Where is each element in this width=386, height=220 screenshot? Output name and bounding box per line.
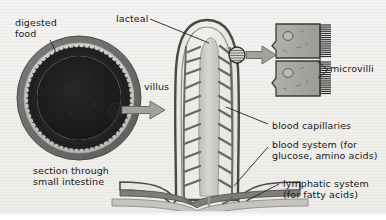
cross-section-group: [17, 36, 141, 160]
label-villus: villus: [144, 82, 169, 93]
label-blood-system: blood system (for glucose, amino acids): [272, 140, 378, 162]
villus-diagram-figure: digested food section through small inte…: [0, 0, 386, 220]
epithelial-cell-upper: [272, 24, 320, 58]
label-digested-food: digested food: [15, 18, 57, 40]
label-lacteal: lacteal: [116, 14, 148, 25]
page-bottom-edge: [0, 211, 386, 220]
magnify-arrow-microvilli: [246, 46, 276, 64]
label-lymphatic-system: lymphatic system (for fatty acids): [283, 179, 369, 201]
cell-nucleus-upper: [283, 32, 293, 41]
label-microvilli: microvilli: [330, 64, 374, 75]
villus-group: [175, 20, 239, 200]
epithelial-cell-lower: [272, 61, 320, 96]
microvilli-bristles: [320, 25, 331, 94]
label-blood-capillaries: blood capillaries: [272, 121, 351, 132]
cell-nucleus-lower: [283, 69, 293, 78]
epithelial-cells-group: [272, 24, 331, 96]
villus-callout-to-microvilli: [229, 46, 276, 64]
label-section-through-small-intestine: section through small intestine: [33, 166, 109, 188]
lacteal-vessel: [199, 38, 220, 196]
